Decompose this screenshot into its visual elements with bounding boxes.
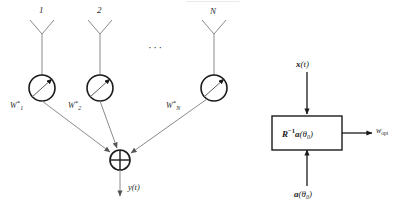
ellipsis-indicator: ···	[148, 42, 164, 53]
figure-canvas: —————————	[0, 0, 403, 216]
output-label-wopt: wopt	[376, 127, 388, 137]
feed-line-2	[100, 101, 117, 148]
weight-label-2-base: W	[68, 101, 75, 110]
weight-label-n-base: W	[166, 101, 173, 110]
antenna-label-1: 1	[39, 6, 44, 15]
input-label-x: x(t)	[296, 60, 309, 69]
steering-close: )	[309, 189, 312, 199]
antenna-element-n	[202, 20, 226, 75]
weight-label-1: W*1	[10, 100, 23, 111]
weight-label-2-sub: 2	[78, 105, 81, 111]
antenna-label-n: N	[210, 7, 216, 16]
weight-label-1-sub: 1	[20, 105, 23, 111]
array-output-label: y(t)	[128, 183, 140, 192]
block-formula-arg: (θ	[299, 129, 306, 139]
weight-label-1-base: W	[10, 101, 17, 110]
input-label-x-arg: (t)	[301, 59, 310, 69]
steering-arg: (θ	[299, 189, 306, 199]
weight-label-n: W*N	[166, 100, 180, 111]
block-formula-exponent: −1	[288, 127, 295, 134]
weight-circle-2	[87, 75, 113, 101]
weight-label-n-sub: N	[176, 105, 180, 111]
block-formula-label: R−1a(θ0)	[282, 128, 313, 140]
antenna-element-2	[88, 20, 112, 75]
weight-circle-1	[29, 75, 55, 101]
summing-junction-symbol	[110, 150, 130, 170]
input-label-steering-vector: a(θ0)	[294, 190, 312, 200]
block-formula-close: )	[310, 129, 313, 139]
antenna-label-2: 2	[97, 6, 102, 15]
weight-label-2: W*2	[68, 100, 81, 111]
antenna-element-1	[30, 20, 54, 75]
output-label-wopt-sub: opt	[381, 130, 388, 136]
weight-circle-n	[201, 75, 227, 101]
diagram-vectors	[0, 0, 403, 216]
